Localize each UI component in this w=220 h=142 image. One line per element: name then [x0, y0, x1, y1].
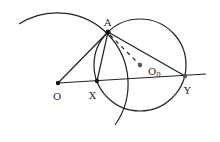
geometry-diagram: A O X Y O0 — [0, 0, 220, 142]
point-Y — [183, 74, 187, 78]
point-A — [106, 30, 111, 35]
dashed-A-O0 — [110, 35, 140, 65]
label-A: A — [103, 17, 112, 28]
label-O: O — [53, 91, 61, 102]
label-O0-sub: 0 — [156, 71, 160, 79]
point-O — [56, 81, 60, 85]
arc-centered-O — [19, 13, 128, 125]
label-X: X — [89, 90, 97, 101]
segment-A-Y — [108, 32, 185, 76]
point-O0 — [138, 63, 142, 67]
segment-O-A — [58, 32, 108, 83]
point-X — [95, 79, 99, 83]
label-Y: Y — [183, 85, 191, 96]
